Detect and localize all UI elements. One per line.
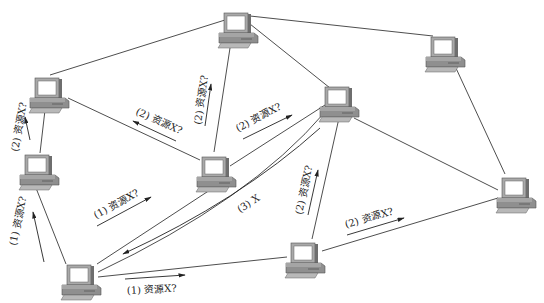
label-n8-n5: (2) 资源X? [292, 164, 314, 215]
computer-icon [19, 155, 59, 190]
label-n8-n7: (2) 资源X? [343, 205, 394, 230]
computer-icon [218, 13, 258, 48]
label-n4-n2: (2) 资源X? [134, 105, 184, 136]
label-n9-n3: (1) 资源X? [6, 195, 28, 246]
computer-icon [29, 78, 69, 113]
computer-icon [425, 37, 465, 72]
diagram-canvas: (1) 资源X? (1) 资源X? (1) 资源X? (2) 资源X? (2) … [0, 0, 544, 303]
computer-icon [61, 265, 101, 300]
label-reply-x: (3) X [235, 192, 262, 215]
label-n3-n2: (2) 资源X? [8, 101, 28, 152]
label-n9-n8: (1) 资源X? [126, 281, 176, 296]
computer-icon [496, 178, 536, 213]
label-n4-n5: (2) 资源X? [233, 100, 283, 134]
network-diagram: (1) 资源X? (1) 资源X? (1) 资源X? (2) 资源X? (2) … [0, 0, 544, 303]
label-n4-n1: (2) 资源X? [191, 74, 210, 125]
computer-icon [285, 243, 325, 278]
computer-icon [319, 87, 359, 122]
computer-icon [196, 157, 236, 192]
computer-nodes [19, 13, 536, 300]
